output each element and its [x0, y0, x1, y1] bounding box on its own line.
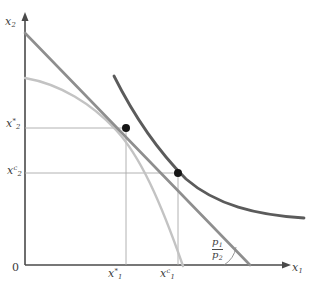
price-ratio-numerator-base: p: [212, 236, 218, 247]
x-axis-arrow-icon: [282, 262, 291, 269]
y-tick-label-x2-star: x*2: [6, 118, 20, 131]
price-ratio-annotation: p1 p2: [212, 237, 223, 261]
y-axis-label-base: x: [5, 15, 11, 28]
price-ratio-denominator-sub: 2: [219, 254, 223, 261]
price-ratio-numerator: p1: [212, 237, 223, 248]
x-tick-x1-star-sub: 1: [118, 273, 122, 281]
x-tick-label-x1-c: xc1: [160, 268, 175, 281]
x-axis-label-sub: 1: [299, 267, 303, 275]
indifference-curve-dark: [114, 76, 304, 218]
y-tick-x2-star-sub: 2: [16, 123, 20, 131]
x-tick-x1-c-sub: 1: [171, 273, 175, 281]
tangency-point-star: [122, 124, 130, 132]
x-axis-label: x1: [292, 262, 303, 275]
y-tick-x2-c-sub: 2: [18, 170, 22, 178]
diagram-canvas: [0, 0, 312, 294]
price-ratio-denominator: p2: [212, 250, 223, 261]
y-tick-x2-c-sup: c: [13, 164, 17, 172]
x-tick-x1-c-sup: c: [166, 267, 170, 275]
tangency-point-c: [174, 169, 182, 177]
figure-container: x2 x1 0 x*2 xc2 x*1 xc1 p1 p2: [0, 0, 312, 294]
y-axis-label: x2: [5, 16, 16, 29]
x-axis-label-base: x: [292, 261, 298, 274]
y-axis-label-sub: 2: [12, 21, 16, 29]
budget-line: [25, 33, 250, 265]
price-ratio-numerator-sub: 1: [219, 241, 223, 248]
y-tick-label-x2-c: xc2: [7, 165, 22, 178]
price-ratio-denominator-base: p: [212, 249, 218, 260]
x-tick-label-x1-star: x*1: [108, 268, 122, 281]
y-axis-arrow-icon: [22, 12, 29, 21]
origin-label: 0: [12, 262, 19, 273]
